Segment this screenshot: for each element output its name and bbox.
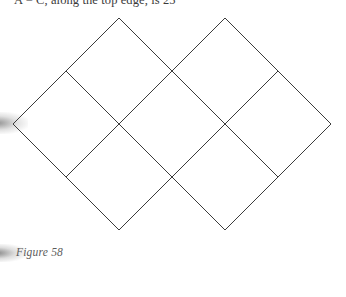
lattice-edge <box>225 71 278 124</box>
lattice-edge <box>172 71 225 124</box>
lattice-edge <box>225 18 278 71</box>
lattice-edge <box>172 124 225 177</box>
lattice-edge <box>172 18 225 71</box>
lattice-edge <box>172 177 225 230</box>
lattice-edge <box>66 18 119 71</box>
figure-caption: Figure 58 <box>16 246 63 258</box>
lattice-edge <box>13 124 66 177</box>
lattice-edge <box>119 177 172 230</box>
lattice-edge <box>119 124 172 177</box>
lattice-edge <box>119 18 172 71</box>
lattice-edge <box>66 124 119 177</box>
lattice-edge <box>66 71 119 124</box>
lattice-edge <box>278 71 331 124</box>
lattice-edge <box>119 71 172 124</box>
lattice-edge <box>225 177 278 230</box>
lattice-edge <box>66 177 119 230</box>
lattice-edge <box>278 124 331 177</box>
lattice-edge <box>225 124 278 177</box>
figure-page: A = C, along the top edge, is 25 Figure … <box>0 0 346 297</box>
lattice-edge <box>13 71 66 124</box>
